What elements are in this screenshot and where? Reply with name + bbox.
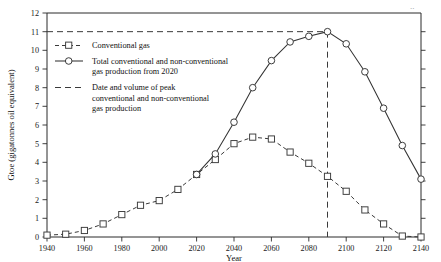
legend-square-marker — [66, 42, 72, 48]
data-point-marker — [380, 105, 387, 112]
y-tick-label: 2 — [35, 196, 39, 205]
data-point-marker — [119, 212, 125, 218]
y-tick-label: 5 — [35, 140, 39, 149]
data-point-marker — [231, 119, 238, 126]
legend-label: Total conventional and non-conventional — [92, 57, 229, 66]
data-point-marker — [212, 151, 219, 158]
y-tick-label: 7 — [35, 102, 39, 111]
x-tick-label: 2120 — [375, 244, 391, 253]
data-point-marker — [324, 28, 331, 35]
legend-label: Conventional gas — [92, 41, 150, 50]
data-point-marker — [156, 198, 162, 204]
x-tick-label: 1960 — [76, 244, 92, 253]
y-tick-label: 0 — [35, 233, 39, 242]
data-point-marker — [231, 141, 237, 147]
series-conventional-gas — [44, 134, 424, 240]
y-tick-label: 9 — [35, 65, 39, 74]
data-point-marker — [399, 233, 405, 239]
y-tick-label: 6 — [35, 121, 39, 130]
data-point-marker — [137, 202, 143, 208]
data-point-marker — [306, 33, 313, 40]
data-point-marker — [306, 160, 312, 166]
y-tick-label: 11 — [31, 28, 39, 37]
x-tick-label: 2020 — [188, 244, 204, 253]
y-tick-label: 10 — [31, 46, 39, 55]
x-tick-label: 2140 — [413, 244, 429, 253]
x-axis-ticks — [47, 237, 421, 242]
chart-canvas: .. — [0, 0, 441, 262]
series-total-gas — [193, 28, 424, 182]
chart-legend: Conventional gas Total conventional and … — [55, 41, 229, 113]
total-gas-markers — [193, 28, 424, 182]
x-tick-label: 2100 — [338, 244, 354, 253]
total-gas-line — [197, 32, 421, 179]
legend-circle-marker — [65, 58, 72, 65]
x-axis-title: Year — [226, 253, 242, 262]
x-axis-tick-labels: 1940 1960 1980 2000 2020 2040 2060 2080 … — [39, 244, 429, 253]
data-point-marker — [399, 142, 406, 149]
data-point-marker — [381, 221, 387, 227]
data-point-marker — [268, 57, 275, 64]
data-point-marker — [287, 39, 294, 46]
data-point-marker — [81, 227, 87, 233]
y-axis-title: Gtoe (gigatonnes oil equivalent) — [6, 69, 16, 180]
x-tick-label: 2060 — [263, 244, 279, 253]
data-point-marker — [324, 173, 330, 179]
data-point-marker — [362, 69, 369, 76]
data-point-marker — [268, 136, 274, 142]
chart-figure: .. — [0, 0, 441, 262]
data-point-marker — [343, 188, 349, 194]
data-point-marker — [418, 234, 424, 240]
y-axis-tick-labels: 0 1 2 3 4 5 6 7 8 9 10 11 12 — [31, 9, 39, 242]
data-point-marker — [343, 41, 350, 48]
legend-entry-peak-guide: Date and volume of peak conventional and… — [55, 83, 210, 113]
data-point-marker — [44, 232, 50, 238]
legend-label: Date and volume of peak — [92, 83, 176, 92]
y-tick-label: 3 — [35, 177, 39, 186]
data-point-marker — [250, 134, 256, 140]
data-point-marker — [287, 149, 293, 155]
x-tick-label: 2040 — [226, 244, 242, 253]
legend-entry-total-gas: Total conventional and non-conventional … — [55, 57, 229, 76]
legend-label: gas production from 2020 — [92, 67, 178, 76]
data-point-marker — [175, 186, 181, 192]
legend-label: gas production — [92, 104, 142, 113]
y-tick-label: 8 — [35, 84, 39, 93]
data-point-marker — [418, 176, 425, 183]
x-tick-label: 1940 — [39, 244, 55, 253]
page-corner-mark: .. — [410, 1, 415, 11]
y-tick-label: 12 — [31, 9, 39, 18]
y-tick-label: 4 — [35, 158, 39, 167]
data-point-marker — [362, 207, 368, 213]
x-tick-label: 2080 — [301, 244, 317, 253]
y-tick-label: 1 — [35, 214, 39, 223]
data-point-marker — [249, 84, 256, 91]
data-point-marker — [193, 171, 200, 178]
x-tick-label: 1980 — [114, 244, 130, 253]
x-tick-label: 2000 — [151, 244, 167, 253]
conventional-gas-markers — [44, 134, 424, 240]
legend-label: conventional and non-conventional — [92, 94, 210, 103]
legend-entry-conventional-gas: Conventional gas — [55, 41, 150, 50]
data-point-marker — [63, 231, 69, 237]
data-point-marker — [100, 221, 106, 227]
